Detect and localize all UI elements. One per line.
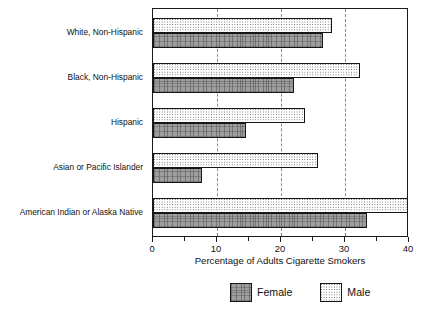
plot-area <box>152 8 408 237</box>
category-label-asian-or-pacific-islander: Asian or Pacific Islander <box>53 162 143 172</box>
chart-legend: Female Male <box>230 280 370 304</box>
tick-25 <box>312 237 313 241</box>
tick-40 <box>408 237 409 242</box>
legend-spacer <box>292 292 320 293</box>
male-swatch-icon <box>320 283 342 302</box>
bar-male-white-non-hispanic <box>153 18 332 33</box>
bar-female-asian-or-pacific-islander <box>153 168 202 183</box>
tick-30 <box>344 237 345 242</box>
bar-male-hispanic <box>153 108 305 123</box>
bar-female-hispanic <box>153 123 246 138</box>
tick-label-30: 30 <box>329 243 359 254</box>
tick-label-20: 20 <box>265 243 295 254</box>
bar-female-black-non-hispanic <box>153 78 294 93</box>
bar-male-asian-or-pacific-islander <box>153 153 318 168</box>
legend-label-female: Female <box>257 286 292 298</box>
bar-female-white-non-hispanic <box>153 33 323 48</box>
tick-label-0: 0 <box>137 243 167 254</box>
legend-item-female: Female <box>230 283 292 302</box>
tick-20 <box>280 237 281 242</box>
category-axis-labels: White, Non-Hispanic Black, Non-Hispanic … <box>0 8 146 237</box>
x-axis-title: Percentage of Adults Cigarette Smokers <box>152 255 408 267</box>
category-label-black-non-hispanic: Black, Non-Hispanic <box>68 72 143 82</box>
bar-female-american-indian-or-alaska-native <box>153 213 367 228</box>
bar-chart: White, Non-Hispanic Black, Non-Hispanic … <box>0 0 424 313</box>
category-label-american-indian-or-alaska-native: American Indian or Alaska Native <box>20 207 143 217</box>
category-label-white-non-hispanic: White, Non-Hispanic <box>67 27 143 37</box>
bar-male-black-non-hispanic <box>153 63 360 78</box>
bar-male-american-indian-or-alaska-native <box>153 198 408 213</box>
tick-label-40: 40 <box>393 243 423 254</box>
tick-35 <box>376 237 377 241</box>
legend-item-male: Male <box>320 283 370 302</box>
tick-label-10: 10 <box>201 243 231 254</box>
tick-10 <box>216 237 217 242</box>
tick-0 <box>152 237 153 242</box>
female-swatch-icon <box>230 283 252 302</box>
tick-5 <box>184 237 185 241</box>
legend-label-male: Male <box>347 286 370 298</box>
tick-15 <box>248 237 249 241</box>
category-label-hispanic: Hispanic <box>111 117 143 127</box>
